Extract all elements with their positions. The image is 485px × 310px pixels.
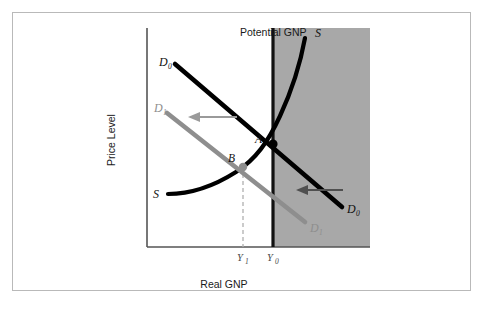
macroeconomics-ad-as-chart: Potential GNP S S D 0 D 0 D 1 D 1 A B xyxy=(0,0,485,310)
svg-text:0: 0 xyxy=(356,209,360,218)
svg-text:D: D xyxy=(346,202,356,216)
potential-gnp-label: Potential GNP xyxy=(240,26,307,38)
svg-text:D: D xyxy=(158,55,168,69)
x-tick-label-y1: Y 1 xyxy=(237,252,249,266)
point-b-marker xyxy=(239,163,247,171)
x-tick-label-y0: Y 0 xyxy=(267,252,279,266)
svg-text:0: 0 xyxy=(275,257,279,266)
svg-text:D: D xyxy=(309,221,319,235)
point-a-marker xyxy=(268,139,277,148)
svg-text:Y: Y xyxy=(237,252,244,263)
y-axis-title: Price Level xyxy=(105,114,117,166)
svg-text:1: 1 xyxy=(319,228,323,237)
figure-root: Potential GNP S S D 0 D 0 D 1 D 1 A B xyxy=(0,0,485,310)
svg-text:D: D xyxy=(153,101,163,115)
demand-label-d0-upper: D 0 xyxy=(158,55,172,71)
svg-text:Y: Y xyxy=(267,252,274,263)
x-axis-title: Real GNP xyxy=(200,278,247,290)
svg-text:0: 0 xyxy=(168,62,172,71)
supply-label-upper: S xyxy=(315,26,321,40)
demand-label-d1-upper: D 1 xyxy=(153,101,167,117)
supply-label-lower: S xyxy=(153,187,159,201)
svg-text:1: 1 xyxy=(163,108,167,117)
point-a-label: A xyxy=(254,133,263,145)
point-b-label: B xyxy=(228,152,235,164)
svg-text:1: 1 xyxy=(245,257,249,266)
